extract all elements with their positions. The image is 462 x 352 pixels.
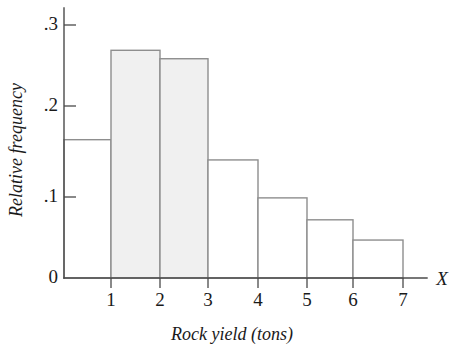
- bar-bin-1: [111, 50, 160, 278]
- y-tick-label-3: .3: [44, 13, 58, 34]
- bar-bin-5: [307, 220, 353, 278]
- x-axis-variable-label: X: [435, 268, 449, 289]
- x-axis-ticks: [111, 278, 403, 288]
- y-tick-label-1: .1: [44, 185, 58, 206]
- x-tick-label-5: 5: [302, 289, 312, 310]
- bar-bin-3: [208, 160, 258, 278]
- bar-bin-6: [353, 240, 403, 278]
- bars-group: [64, 50, 403, 278]
- histogram-plot-area: .3 .2 .1 0 1 2 3 4 5 6 7 X Relative freq…: [0, 0, 462, 352]
- x-tick-label-1: 1: [106, 289, 116, 310]
- x-tick-label-7: 7: [398, 289, 408, 310]
- y-tick-label-2: .2: [44, 94, 58, 115]
- bar-bin-2: [160, 59, 208, 278]
- bar-rect: [160, 59, 208, 278]
- y-axis-title: Relative frequency: [6, 83, 26, 218]
- bar-rect: [208, 160, 258, 278]
- x-tick-label-2: 2: [155, 289, 165, 310]
- bar-rect: [307, 220, 353, 278]
- y-tick-label-0: 0: [49, 266, 59, 287]
- histogram-figure: .3 .2 .1 0 1 2 3 4 5 6 7 X Relative freq…: [0, 0, 462, 352]
- x-tick-label-3: 3: [203, 289, 213, 310]
- x-axis-title: Rock yield (tons): [170, 324, 293, 345]
- bar-bin-0: [64, 140, 111, 278]
- bar-rect: [64, 140, 111, 278]
- x-tick-label-6: 6: [348, 289, 358, 310]
- bar-rect: [111, 50, 160, 278]
- bar-rect: [258, 198, 307, 278]
- bar-rect: [353, 240, 403, 278]
- x-tick-label-4: 4: [253, 289, 263, 310]
- bar-bin-4: [258, 198, 307, 278]
